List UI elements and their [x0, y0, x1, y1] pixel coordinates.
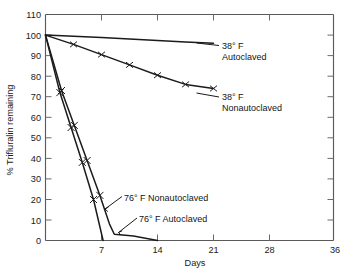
annot-38f-autoclaved-line2: Autoclaved — [222, 52, 267, 62]
y-tick-label: 70 — [31, 92, 41, 102]
series-76f-autoclaved — [46, 35, 158, 240]
plot-frame — [46, 15, 334, 241]
annot-76f-autoclaved: 76° F Autoclaved — [119, 214, 208, 236]
trifluralin-degradation-chart: 110 100 90 80 70 60 50 40 30 20 10 0 7 1… — [0, 0, 357, 273]
annot-76f-autoclaved-label: 76° F Autoclaved — [139, 214, 207, 224]
y-tick-label: 90 — [31, 51, 41, 61]
x-tick-label: 14 — [152, 245, 162, 255]
chart-svg: 110 100 90 80 70 60 50 40 30 20 10 0 7 1… — [0, 0, 357, 273]
x-tick-label: 21 — [208, 245, 218, 255]
y-tick-label: 60 — [31, 113, 41, 123]
y-tick-labels: 110 100 90 80 70 60 50 40 30 20 10 0 — [26, 10, 41, 246]
annot-38f-nonautoclaved: 38° F Nonautoclaved — [197, 92, 283, 113]
annot-76f-nonautoclaved-label: 76° F Nonautoclaved — [124, 193, 208, 203]
series-markers — [70, 42, 217, 92]
x-tick-label: 36 — [330, 245, 340, 255]
y-tick-label: 10 — [31, 216, 41, 226]
y-tick-label: 110 — [26, 10, 41, 20]
y-axis-ticks-right — [328, 35, 334, 220]
y-tick-label: 0 — [36, 236, 41, 246]
annot-38f-nonautoclaved-line2: Nonautoclaved — [222, 103, 282, 113]
y-axis-ticks — [46, 35, 52, 220]
x-tick-labels: 7 14 21 28 36 — [99, 245, 340, 255]
y-tick-label: 50 — [31, 133, 41, 143]
y-tick-label: 80 — [31, 72, 41, 82]
annot-76f-nonautoclaved: 76° F Nonautoclaved — [105, 193, 208, 212]
y-tick-label: 30 — [31, 174, 41, 184]
annot-38f-autoclaved-line1: 38° F — [222, 41, 244, 51]
y-tick-label: 20 — [31, 195, 41, 205]
annot-38f-nonautoclaved-line1: 38° F — [222, 92, 244, 102]
y-tick-label: 100 — [26, 31, 41, 41]
x-tick-label: 28 — [264, 245, 274, 255]
series-38f-nonautoclaved — [46, 35, 218, 91]
x-tick-label: 7 — [99, 245, 104, 255]
x-axis-ticks-top — [102, 15, 270, 21]
y-axis-title: % Trifluralin remaining — [5, 85, 15, 176]
x-axis-title: Days — [185, 258, 206, 268]
y-tick-label: 40 — [31, 154, 41, 164]
